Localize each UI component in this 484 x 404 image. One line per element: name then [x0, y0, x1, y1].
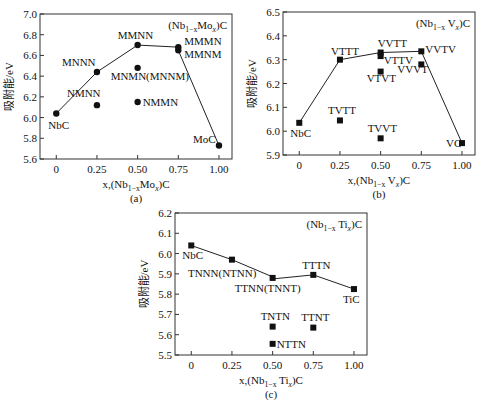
y-tick-label: 6.1	[266, 101, 280, 113]
x-tick-label: 0	[189, 359, 195, 371]
y-tick-label: 5.8	[158, 288, 172, 300]
data-point-marker	[337, 117, 343, 123]
data-point-label: NMMN	[143, 96, 179, 108]
x-tick-label: 0.25	[87, 163, 107, 175]
data-point-label: NTTN	[277, 338, 306, 350]
chart-title-sub: 1−x	[433, 23, 445, 32]
data-point-label: VTTT	[331, 45, 359, 57]
x-axis-label-mid: Ti	[277, 374, 289, 386]
y-tick-label: 6.2	[266, 78, 280, 90]
data-point-marker	[310, 272, 316, 278]
y-tick-label: 5.6	[158, 329, 172, 341]
x-tick-label: 1.00	[452, 159, 472, 171]
data-point-label: TTTN	[302, 259, 330, 271]
panel-caption: (c)	[265, 388, 278, 401]
x-tick-label: 0.25	[222, 359, 242, 371]
chart-title-pre: (Nb	[416, 17, 434, 30]
y-tick-label: 7.0	[23, 8, 37, 20]
x-tick-label: 0.50	[263, 359, 283, 371]
y-tick-label: 5.9	[158, 268, 172, 280]
y-axis-label: 吸附能/eV	[137, 260, 150, 309]
y-tick-label: 6.0	[266, 125, 280, 137]
data-point-marker	[270, 324, 276, 330]
data-point-marker	[216, 142, 222, 148]
x-tick-label: 0.75	[169, 163, 189, 175]
data-point-label: MMNM	[184, 48, 222, 60]
data-point-label: MNNN	[62, 56, 96, 68]
y-tick-label: 5.5	[158, 349, 172, 361]
data-point-marker	[94, 69, 100, 75]
y-axis-label: 吸附能/eV	[245, 59, 258, 108]
x-axis-label-mid: V	[385, 174, 396, 186]
chart-title-mid: Mo	[197, 19, 213, 31]
data-point-label: MMMN	[184, 35, 221, 47]
chart-title-post: )C	[351, 218, 362, 231]
data-point-label: VTVT	[367, 72, 397, 84]
x-axis-label-post: )C	[159, 178, 170, 191]
x-tick-label: 0.75	[412, 159, 432, 171]
x-tick-label: 0	[297, 159, 303, 171]
y-tick-label: 6.2	[158, 207, 172, 219]
data-point-label: VVTV	[425, 43, 456, 55]
data-point-marker	[310, 325, 316, 331]
x-axis-label-pre: x,(Nb	[239, 374, 265, 387]
data-point-label: MMNN	[118, 29, 154, 41]
data-point-marker	[270, 341, 276, 347]
data-point-marker	[378, 135, 384, 141]
data-point-label: TTNN(TNNT)	[235, 282, 301, 295]
x-axis-label: x,(Nb1−x Vx)C	[348, 174, 410, 189]
data-point-label: NbC	[182, 249, 203, 261]
y-tick-label: 6.1	[158, 227, 172, 239]
chart-title: (Nb1−x Vx)C	[416, 17, 470, 32]
data-point-label: MNMN(MNNM)	[111, 70, 190, 83]
data-point-marker	[296, 120, 302, 126]
figure-canvas: 5.65.86.06.26.46.66.87.000.250.500.751.0…	[0, 0, 484, 404]
x-axis-label-post: )C	[399, 174, 410, 187]
data-point-marker	[337, 57, 343, 63]
y-tick-label: 6.0	[158, 248, 172, 260]
y-tick-label: 5.6	[23, 153, 37, 165]
x-tick-label: 1.00	[344, 359, 364, 371]
data-point-marker	[229, 257, 235, 263]
y-tick-label: 6.3	[266, 54, 280, 66]
panel-caption: (b)	[373, 188, 386, 201]
x-axis-label-post: )C	[292, 374, 303, 387]
y-tick-label: 6.5	[266, 6, 280, 18]
data-point-label: TiC	[343, 293, 360, 305]
x-axis-label-pre: x,(Nb	[348, 174, 374, 187]
data-point-marker	[188, 242, 194, 248]
data-point-label: MoC	[193, 133, 216, 145]
data-point-label: TVTT	[328, 104, 356, 116]
y-tick-label: 6.4	[23, 70, 37, 82]
y-axis-label: 吸附能/eV	[2, 62, 15, 111]
data-point-label: TTNT	[301, 311, 329, 323]
chart-title: (Nb1−x Tix)C	[306, 218, 362, 233]
y-tick-label: 6.4	[266, 30, 280, 42]
chart-title-post: )C	[216, 19, 227, 32]
data-point-label: VC	[446, 137, 461, 149]
chart-panel-b: 5.96.06.16.26.36.46.500.250.500.751.00吸附…	[245, 6, 475, 201]
data-point-marker	[134, 42, 140, 48]
chart-title-pre: (Nb	[306, 218, 324, 231]
chart-title-mid: V	[445, 17, 456, 29]
data-point-label: VVTT	[378, 37, 408, 49]
data-point-marker	[175, 47, 181, 53]
chart-title: (Nb1−xMox)C	[168, 19, 227, 34]
chart-title-sub: 1−x	[324, 224, 336, 233]
data-point-marker	[418, 48, 424, 54]
chart-title-sub: 1−x	[185, 25, 197, 34]
chart-title-mid: Ti	[336, 218, 348, 230]
x-tick-label: 0.75	[304, 359, 324, 371]
y-tick-label: 6.0	[23, 112, 37, 124]
y-tick-label: 5.9	[266, 149, 280, 161]
data-point-marker	[134, 99, 140, 105]
x-tick-label: 0	[54, 163, 60, 175]
y-tick-label: 6.6	[23, 49, 37, 61]
data-point-label: NbC	[48, 119, 69, 131]
y-tick-label: 5.8	[23, 132, 37, 144]
data-point-label: TVVT	[368, 122, 398, 134]
data-point-label: TNTN	[261, 310, 290, 322]
y-tick-label: 6.2	[23, 91, 37, 103]
x-tick-label: 0.25	[330, 159, 350, 171]
data-point-label: NbC	[290, 127, 311, 139]
